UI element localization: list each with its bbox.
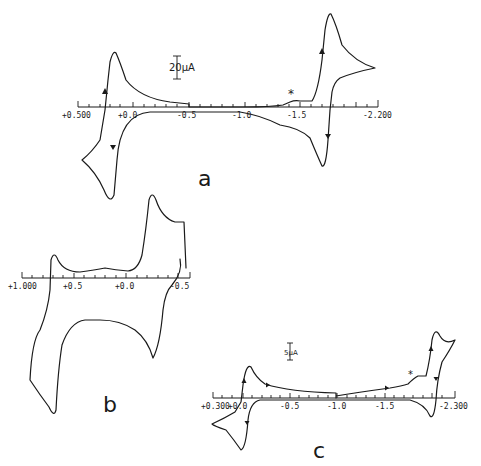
cyclic-voltammogram-figure: +0.500 +0.0 -0.5 -1.0 -1.5 -2.200 20μA *… <box>0 0 481 466</box>
panel-b-ticks <box>22 272 190 278</box>
panel-c-voltammogram-curve <box>212 332 455 450</box>
panel-a-tick-4: -1.5 <box>287 111 306 120</box>
panel-c-arrow-down-left-icon <box>245 421 250 425</box>
panel-b-tick-2: +0.0 <box>115 282 134 291</box>
panel-a-label: a <box>198 166 211 191</box>
panel-c-arrow-up-left-icon <box>242 378 247 383</box>
panel-a-scale-bar: 20μA <box>169 56 195 79</box>
panel-a-scale-label: 20μA <box>169 62 195 73</box>
panel-a: +0.500 +0.0 -0.5 -1.0 -1.5 -2.200 20μA *… <box>62 14 392 199</box>
panel-b-tick-0: +1.000 <box>8 282 37 291</box>
panel-c-tick-0: +0.300 <box>201 402 230 411</box>
panel-a-voltammogram-curve <box>82 14 375 199</box>
panel-c-label: c <box>313 438 325 463</box>
panel-c-scale-bar: 5μA <box>284 343 298 360</box>
panel-b: +1.000 +0.5 +0.0 -0.5 b <box>8 195 190 417</box>
panel-c-tick-5: -2.300 <box>439 402 468 411</box>
panel-c-arrow-right-2-icon <box>385 386 389 391</box>
panel-a-arrow-up-right-icon <box>319 48 325 54</box>
panel-c-ticks <box>213 391 455 398</box>
panel-a-tick-5: -2.200 <box>363 111 392 120</box>
panel-a-star-annotation: * <box>288 87 294 101</box>
panel-b-voltammogram-curve <box>30 195 186 413</box>
panel-a-arrow-down-left-icon <box>110 145 116 150</box>
panel-c-tick-4: -1.5 <box>375 402 394 411</box>
panel-a-ticks <box>78 100 378 107</box>
panel-c-scale-label: 5μA <box>284 349 298 357</box>
panel-b-label: b <box>103 392 117 417</box>
panel-c-arrow-up-right-icon <box>429 346 434 351</box>
panel-c-tick-3: -1.0 <box>327 402 346 411</box>
panel-a-arrow-down-right-icon <box>325 134 331 139</box>
panel-a-tick-1: +0.0 <box>118 111 137 120</box>
panel-c-tick-2: -0.5 <box>280 402 299 411</box>
panel-c: +0.300 +0.0 -0.5 -1.0 -1.5 -2.300 5μA * … <box>201 332 468 463</box>
panel-c-star-annotation: * <box>408 369 413 380</box>
panel-c-arrow-right-1-icon <box>266 383 270 388</box>
panel-a-tick-0: +0.500 <box>62 111 91 120</box>
figure-canvas: +0.500 +0.0 -0.5 -1.0 -1.5 -2.200 20μA *… <box>0 0 481 466</box>
panel-b-tick-1: +0.5 <box>63 282 82 291</box>
